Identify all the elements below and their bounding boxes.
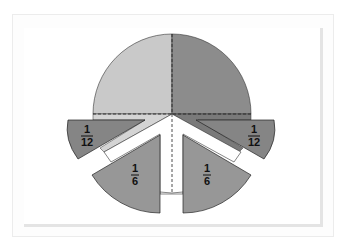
upper-left-quarter	[93, 34, 172, 114]
right-sixth-label: 1 6	[203, 162, 211, 187]
upper-right-quarter	[172, 34, 251, 114]
svg-text:12: 12	[248, 136, 260, 148]
svg-text:1: 1	[84, 123, 90, 135]
svg-text:6: 6	[204, 175, 210, 187]
svg-text:12: 12	[81, 136, 93, 148]
svg-text:1: 1	[251, 123, 257, 135]
left-sixth-label: 1 6	[131, 162, 139, 187]
fraction-circle-diagram: 1 12 1 12 1 6 1 6	[0, 0, 347, 245]
svg-text:1: 1	[132, 162, 138, 174]
svg-text:1: 1	[204, 162, 210, 174]
svg-text:6: 6	[132, 175, 138, 187]
